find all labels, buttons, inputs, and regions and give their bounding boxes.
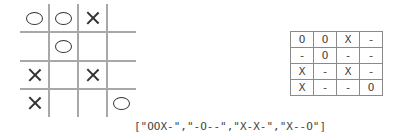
tic-tac-toe-board xyxy=(20,4,136,117)
circle-icon xyxy=(55,12,72,25)
board-cell xyxy=(78,32,107,60)
table-cell: O xyxy=(314,48,337,64)
board-table: O O X - - O - - X - X - X - - O xyxy=(290,31,383,96)
table-cell: X xyxy=(337,32,360,48)
table-cell: O xyxy=(291,32,314,48)
table-cell: - xyxy=(314,64,337,80)
board-cell xyxy=(20,32,49,60)
circle-icon xyxy=(26,12,43,25)
cross-icon xyxy=(87,69,99,81)
table-cell: - xyxy=(337,80,360,96)
table-cell: - xyxy=(314,80,337,96)
board-cell xyxy=(20,89,49,117)
table-row: - O - - xyxy=(291,48,383,64)
board-cell xyxy=(78,4,107,32)
table-cell: - xyxy=(360,32,383,48)
board-cell xyxy=(20,61,49,89)
table-row: X - - O xyxy=(291,80,383,96)
table-row: O O X - xyxy=(291,32,383,48)
table-row: X - X - xyxy=(291,64,383,80)
board-cell xyxy=(107,61,136,89)
board-cell xyxy=(20,4,49,32)
circle-icon xyxy=(113,97,130,110)
board-cell xyxy=(49,32,78,60)
board-cell xyxy=(49,89,78,117)
circle-icon xyxy=(55,40,72,53)
table-cell: - xyxy=(360,48,383,64)
board-cell xyxy=(78,89,107,117)
board-cell xyxy=(107,32,136,60)
board-cell xyxy=(78,61,107,89)
cross-icon xyxy=(87,12,99,24)
table-cell: - xyxy=(291,48,314,64)
table-cell: O xyxy=(314,32,337,48)
table-cell: - xyxy=(360,64,383,80)
table-cell: X xyxy=(291,64,314,80)
table-cell: X xyxy=(291,80,314,96)
table-cell: - xyxy=(337,48,360,64)
table-cell: O xyxy=(360,80,383,96)
board-cell xyxy=(49,4,78,32)
cross-icon xyxy=(29,69,41,81)
cross-icon xyxy=(29,97,41,109)
board-string-encoding: ["OOX-","-O--","X-X-","X--O"] xyxy=(134,120,326,133)
table-cell: X xyxy=(337,64,360,80)
board-cell xyxy=(49,61,78,89)
board-cell xyxy=(107,89,136,117)
board-cell xyxy=(107,4,136,32)
